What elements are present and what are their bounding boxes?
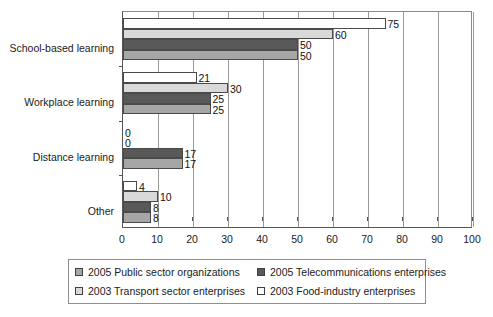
legend-item[interactable]: 2005 Telecommunications enterprises	[257, 266, 433, 278]
bar	[123, 104, 211, 115]
category-tick	[119, 175, 123, 176]
category-label: Other	[88, 206, 114, 217]
axis-tick-label: 10	[151, 233, 163, 245]
bar	[123, 202, 151, 213]
bar-value-label: 60	[335, 30, 347, 40]
axis-tick-label: 90	[431, 233, 443, 245]
category-label: School-based learning	[10, 43, 115, 54]
bar	[123, 212, 151, 223]
bar-value-label: 10	[160, 192, 172, 202]
bar-value-label: 0	[125, 138, 131, 148]
bar-value-label: 50	[300, 40, 312, 50]
tick-70	[367, 217, 368, 221]
axis-tick-label: 40	[256, 233, 268, 245]
bar-value-label: 17	[185, 149, 197, 159]
bar	[123, 29, 333, 40]
bar-value-label: 4	[139, 182, 145, 192]
bar	[123, 18, 386, 29]
axis-tick-label: 80	[396, 233, 408, 245]
tick-30	[227, 217, 228, 221]
axis-tick-label: 50	[291, 233, 303, 245]
legend-swatch-icon	[257, 287, 265, 295]
tick-60	[332, 217, 333, 221]
tick-80	[402, 217, 403, 221]
bar	[123, 50, 298, 61]
axis-tick-label: 0	[119, 233, 125, 245]
value-axis-labels: 0102030405060708090100	[122, 233, 472, 249]
axis-tick-label: 20	[186, 233, 198, 245]
bar-value-label: 8	[153, 203, 159, 213]
category-tick	[119, 66, 123, 67]
legend-label: 2005 Public sector organizations	[88, 266, 240, 278]
legend-item[interactable]: 2003 Food-industry enterprises	[257, 285, 433, 297]
bar	[123, 148, 183, 159]
chart-legend: 2005 Public sector organizations2005 Tel…	[68, 259, 426, 304]
bar	[123, 93, 211, 104]
axis-tick-label: 100	[463, 233, 481, 245]
axis-tick-label: 30	[221, 233, 233, 245]
bar	[123, 191, 158, 202]
tick-50	[297, 217, 298, 221]
legend-label: 2005 Telecommunications enterprises	[270, 266, 446, 278]
legend-label: 2003 Food-industry enterprises	[270, 285, 415, 297]
tick-0	[122, 217, 123, 221]
legend-swatch-icon	[257, 268, 265, 276]
bar-value-label: 17	[185, 159, 197, 169]
bar-value-label: 30	[230, 84, 242, 94]
gridline-50	[298, 12, 299, 227]
bar-value-label: 0	[125, 128, 131, 138]
bar-chart: School-based learningWorkplace learningD…	[0, 0, 493, 317]
tick-40	[262, 217, 263, 221]
bar-value-label: 21	[199, 73, 211, 83]
bar	[123, 158, 183, 169]
tick-20	[192, 217, 193, 221]
gridline-90	[438, 12, 439, 227]
bar	[123, 72, 197, 83]
axis-tick-label: 60	[326, 233, 338, 245]
plot-area-wrapper: School-based learningWorkplace learningD…	[0, 0, 493, 240]
tick-10	[157, 217, 158, 221]
gridline-100	[473, 12, 474, 227]
legend-swatch-icon	[75, 268, 83, 276]
bar	[123, 181, 137, 192]
category-label: Distance learning	[33, 152, 114, 163]
gridline-80	[403, 12, 404, 227]
bar	[123, 39, 298, 50]
legend-item[interactable]: 2003 Transport sector enterprises	[75, 285, 257, 297]
gridline-70	[368, 12, 369, 227]
category-label: Workplace learning	[24, 97, 114, 108]
tick-90	[437, 217, 438, 221]
plot-area: 756050502130252500171741088	[122, 11, 472, 228]
legend-item[interactable]: 2005 Public sector organizations	[75, 266, 257, 278]
bar-value-label: 50	[300, 51, 312, 61]
category-tick	[119, 121, 123, 122]
legend-label: 2003 Transport sector enterprises	[88, 285, 245, 297]
axis-tick-label: 70	[361, 233, 373, 245]
bar-value-label: 75	[388, 19, 400, 29]
gridline-60	[333, 12, 334, 227]
category-axis-labels: School-based learningWorkplace learningD…	[0, 11, 118, 228]
legend-swatch-icon	[75, 287, 83, 295]
tick-100	[472, 217, 473, 221]
bar-value-label: 25	[213, 105, 225, 115]
bar-value-label: 25	[213, 94, 225, 104]
bar	[123, 83, 228, 94]
